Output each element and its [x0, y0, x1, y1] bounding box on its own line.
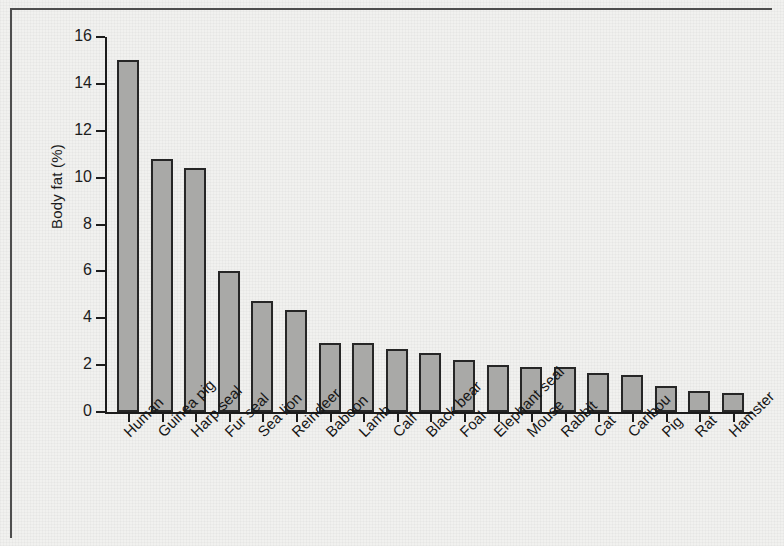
y-axis-tick — [96, 36, 105, 38]
y-axis-tick — [96, 83, 105, 85]
bar — [184, 168, 206, 412]
bar — [722, 393, 744, 412]
bar — [688, 391, 710, 412]
y-axis-title: Body fat (%) — [48, 87, 65, 287]
figure-page: Body fat (%) 0246810121416 HumanGuinea p… — [0, 0, 784, 546]
y-axis-tick — [96, 411, 105, 413]
y-axis-tick-label: 4 — [52, 308, 92, 326]
y-axis-tick — [96, 224, 105, 226]
y-axis-tick-label: 14 — [52, 74, 92, 92]
y-axis-tick-label: 16 — [52, 27, 92, 45]
y-axis-line — [105, 37, 107, 414]
y-axis-tick — [96, 270, 105, 272]
bar — [151, 159, 173, 412]
y-axis-tick-label: 0 — [52, 402, 92, 420]
y-axis-tick-label: 10 — [52, 168, 92, 186]
y-axis-tick-label: 6 — [52, 261, 92, 279]
y-axis-tick — [96, 317, 105, 319]
x-axis-category-label: Rat — [691, 411, 720, 440]
x-axis-category-label: Pig — [658, 412, 686, 440]
y-axis-tick-label: 8 — [52, 215, 92, 233]
bar — [487, 365, 509, 412]
bar — [419, 353, 441, 412]
x-axis-category-label: Cat — [590, 411, 619, 440]
bar — [386, 349, 408, 412]
y-axis-tick — [96, 177, 105, 179]
y-axis-tick-label: 12 — [52, 121, 92, 139]
y-axis-tick — [96, 364, 105, 366]
bar-chart: Body fat (%) 0246810121416 HumanGuinea p… — [0, 0, 784, 546]
bar — [621, 375, 643, 413]
bar — [117, 60, 139, 412]
y-axis-tick-label: 2 — [52, 355, 92, 373]
y-axis-tick — [96, 130, 105, 132]
